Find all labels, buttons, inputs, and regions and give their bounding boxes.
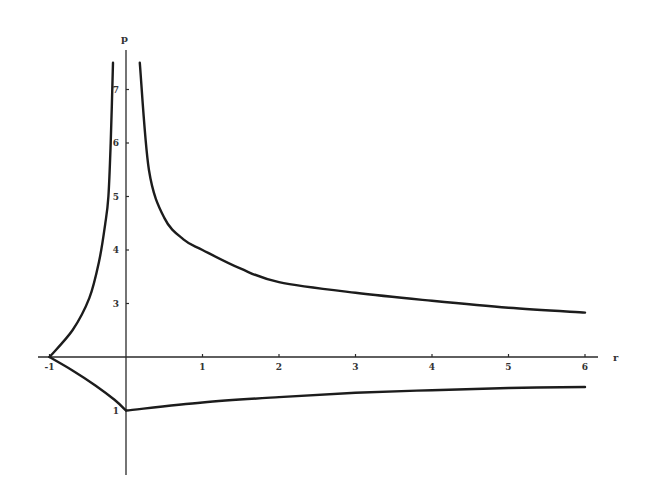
y-tick-label: 6 — [113, 138, 119, 148]
x-tick-label: 2 — [276, 362, 282, 372]
y-tick-label: 4 — [113, 245, 119, 255]
y-tick-label: 1 — [113, 406, 119, 416]
curves — [50, 63, 586, 411]
x-axis-label: r — [613, 352, 619, 363]
upper-right-branch-curve — [140, 63, 585, 313]
x-tick-label: -1 — [45, 362, 55, 372]
lower-left-branch-curve — [50, 357, 127, 411]
lower-right-branch-curve — [126, 387, 585, 411]
y-tick-label: 3 — [113, 299, 119, 309]
upper-left-branch-curve — [50, 63, 114, 357]
x-tick-label: 3 — [352, 362, 358, 372]
x-tick-label: 6 — [582, 362, 588, 372]
y-tick-label: 7 — [113, 85, 119, 95]
y-tick-label: 5 — [113, 192, 119, 202]
y-axis-label: p — [121, 33, 128, 44]
x-tick-label: 4 — [429, 362, 435, 372]
chart-canvas: r p -1123456 134567 — [0, 0, 652, 500]
x-tick-label: 5 — [505, 362, 511, 372]
x-tick-label: 1 — [199, 362, 205, 372]
